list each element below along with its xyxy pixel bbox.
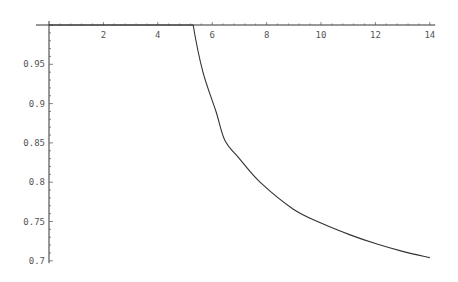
x-tick-label: 10 <box>316 30 327 40</box>
y-tick-label: 0.8 <box>29 177 45 187</box>
x-tick-label: 4 <box>155 30 160 40</box>
x-tick-label: 14 <box>424 30 435 40</box>
data-curve <box>49 25 430 258</box>
tick-marks <box>49 22 430 261</box>
x-tick-label: 8 <box>264 30 269 40</box>
x-tick-label: 12 <box>370 30 381 40</box>
x-tick-label: 6 <box>209 30 214 40</box>
y-tick-label: 0.95 <box>23 59 45 69</box>
y-tick-label: 0.85 <box>23 138 45 148</box>
x-tick-label: 2 <box>101 30 106 40</box>
y-tick-label: 0.75 <box>23 217 45 227</box>
line-chart: 24681012140.70.750.80.850.90.95 <box>0 0 458 282</box>
y-tick-label: 0.7 <box>29 256 45 266</box>
axes <box>36 21 435 263</box>
y-tick-label: 0.9 <box>29 99 45 109</box>
